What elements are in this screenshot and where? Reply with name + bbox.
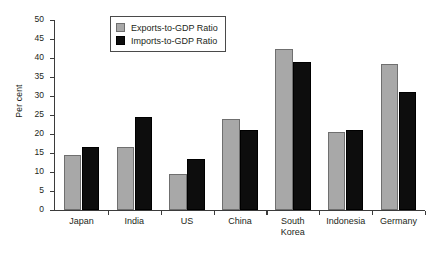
bar-imports	[293, 62, 311, 210]
bar-exports	[117, 147, 135, 210]
x-axis-category-label: SouthKorea	[266, 216, 319, 238]
y-axis-tick-label: 20	[35, 128, 44, 138]
y-axis-tick-label: 35	[35, 71, 44, 81]
bar-exports	[328, 132, 346, 210]
bar-group	[275, 20, 311, 210]
y-axis-tick-label: 50	[35, 14, 44, 24]
bar-group	[381, 20, 417, 210]
y-axis-tick-label: 15	[35, 147, 44, 157]
x-axis-category-label: US	[161, 216, 214, 227]
legend-item-imports: Imports-to-GDP Ratio	[116, 34, 218, 47]
x-axis-tick-mark	[372, 211, 373, 215]
bar-group	[222, 20, 258, 210]
x-axis-tick-mark	[214, 211, 215, 215]
x-axis-category-label: China	[214, 216, 267, 227]
bar-group	[328, 20, 364, 210]
y-axis-tick-label: 30	[35, 90, 44, 100]
bar-imports	[346, 130, 364, 210]
x-axis-category-label: Indonesia	[319, 216, 372, 227]
bar-exports	[169, 174, 187, 210]
bar-exports	[64, 155, 82, 210]
y-axis-tick-label: 10	[35, 166, 44, 176]
bar-imports	[399, 92, 417, 210]
y-axis-tick-label: 25	[35, 109, 44, 119]
y-axis-title: Per cent	[14, 66, 24, 136]
legend-swatch-exports-icon	[116, 23, 125, 32]
bar-exports	[275, 49, 293, 211]
y-axis-tick-label: 40	[35, 52, 44, 62]
y-axis-tick-label: 45	[35, 33, 44, 43]
y-axis-tick-label: 0	[39, 204, 44, 214]
x-axis-tick-mark	[161, 211, 162, 215]
x-axis-tick-mark	[425, 211, 426, 215]
bar-group	[64, 20, 100, 210]
bar-imports	[135, 117, 153, 210]
legend-swatch-imports-icon	[116, 36, 125, 45]
x-axis-tick-mark	[266, 211, 267, 215]
x-axis-category-label: Japan	[55, 216, 108, 227]
legend-label-imports: Imports-to-GDP Ratio	[131, 36, 217, 46]
x-axis-category-label: India	[108, 216, 161, 227]
x-axis-category-label: Germany	[372, 216, 425, 227]
bar-exports	[222, 119, 240, 210]
chart-legend: Exports-to-GDP Ratio Imports-to-GDP Rati…	[110, 16, 226, 52]
bar-imports	[82, 147, 100, 210]
bar-chart-figure: Per cent 50454035302520151050 JapanIndia…	[0, 0, 433, 253]
y-axis-tick-label: 5	[39, 185, 44, 195]
bar-exports	[381, 64, 399, 210]
legend-label-exports: Exports-to-GDP Ratio	[131, 23, 218, 33]
bar-imports	[187, 159, 205, 210]
legend-item-exports: Exports-to-GDP Ratio	[116, 21, 218, 34]
bar-imports	[240, 130, 258, 210]
x-axis-tick-mark	[319, 211, 320, 215]
x-axis-tick-mark	[108, 211, 109, 215]
